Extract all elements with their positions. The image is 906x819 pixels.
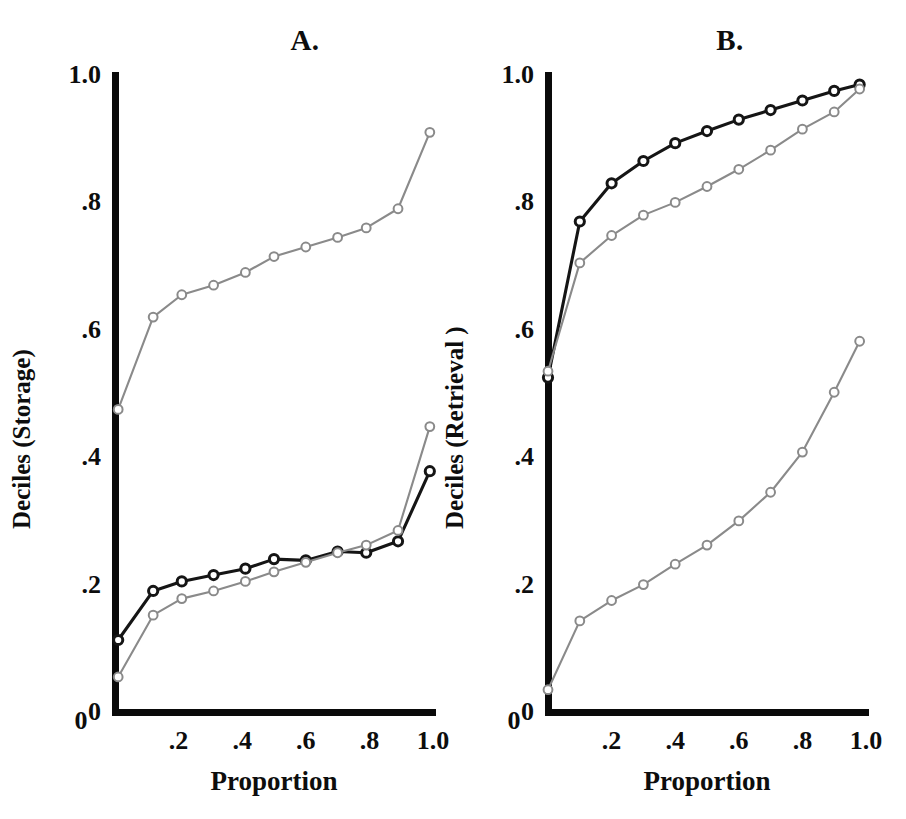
panel-b-xtick-5: 1.0 [834, 728, 898, 754]
panel-a-plot-area [0, 0, 453, 819]
data-point-marker [241, 564, 250, 573]
panel-a-x-axis-label: Proportion [109, 768, 439, 795]
data-point-marker [114, 673, 123, 682]
data-point-marker [241, 577, 250, 586]
data-point-marker [766, 488, 775, 497]
panel-a-ytick-2: .4 [37, 444, 101, 470]
data-point-marker [639, 211, 648, 220]
data-point-marker [209, 570, 218, 579]
data-point-marker [333, 233, 342, 242]
panel-b-x-axis-label: Proportion [542, 768, 872, 795]
data-point-marker [544, 685, 553, 694]
data-point-marker [607, 596, 616, 605]
data-point-marker [270, 567, 279, 576]
data-point-marker [766, 105, 775, 114]
data-point-marker [830, 388, 839, 397]
data-point-marker [301, 243, 310, 252]
data-point-marker [702, 126, 711, 135]
figure-container: A. Deciles (Storage) 0 .2 .4 .6 .8 1.0 0… [0, 0, 906, 819]
panel-a-ytick-4: .8 [37, 189, 101, 215]
data-point-marker [114, 405, 123, 414]
data-point-marker [798, 96, 807, 105]
data-point-marker [734, 517, 743, 526]
data-point-marker [671, 198, 680, 207]
data-point-marker [269, 555, 278, 564]
data-point-marker [394, 526, 403, 535]
data-point-marker [362, 541, 371, 550]
data-point-marker [333, 548, 342, 557]
data-point-marker [855, 337, 864, 346]
data-point-marker [362, 223, 371, 232]
data-point-marker [425, 128, 434, 137]
data-point-marker [425, 467, 434, 476]
panel-b-xtick-3: .6 [707, 728, 771, 754]
data-point-marker [830, 86, 839, 95]
data-point-marker [703, 182, 712, 191]
panel-a-xtick-2: .4 [210, 728, 274, 754]
data-point-marker [209, 587, 218, 596]
data-point-marker [798, 448, 807, 457]
data-point-marker [114, 635, 123, 644]
series-line-upper-gray [118, 132, 430, 409]
data-point-marker [301, 558, 310, 567]
data-point-marker [575, 259, 584, 268]
data-point-marker [607, 179, 616, 188]
data-point-marker [798, 125, 807, 134]
panel-b-xtick-0: 0 [482, 708, 546, 734]
data-point-marker [766, 146, 775, 155]
data-point-marker [639, 580, 648, 589]
panel-b-ytick-4: .8 [470, 189, 534, 215]
data-point-marker [425, 422, 434, 431]
series-line-lower-gray [118, 427, 430, 677]
data-point-marker [177, 594, 186, 603]
data-point-marker [177, 577, 186, 586]
panel-a-ytick-5: 1.0 [37, 62, 101, 88]
panel-b-ytick-2: .4 [470, 444, 534, 470]
panel-a-ytick-1: .2 [37, 572, 101, 598]
data-point-marker [149, 586, 158, 595]
data-point-marker [671, 560, 680, 569]
data-point-marker [241, 268, 250, 277]
data-point-marker [734, 115, 743, 124]
data-point-marker [671, 139, 680, 148]
data-point-marker [575, 617, 584, 626]
panel-a: A. Deciles (Storage) 0 .2 .4 .6 .8 1.0 0… [0, 0, 453, 819]
panel-b-xtick-4: .8 [770, 728, 834, 754]
panel-a-xtick-3: .6 [274, 728, 338, 754]
panel-a-xtick-4: .8 [337, 728, 401, 754]
data-point-marker [639, 156, 648, 165]
data-point-marker [544, 367, 553, 376]
panel-b-xtick-2: .4 [643, 728, 707, 754]
data-point-marker [607, 231, 616, 240]
panel-b-ytick-3: .6 [470, 317, 534, 343]
data-point-marker [177, 290, 186, 299]
data-point-marker [575, 217, 584, 226]
data-point-marker [149, 313, 158, 322]
series-line-lower-gray [548, 341, 860, 689]
data-point-marker [394, 204, 403, 213]
data-point-marker [830, 108, 839, 117]
data-point-marker [149, 611, 158, 620]
panel-b: B. Deciles (Retrieval ) 0 .2 .4 .6 .8 1.… [453, 0, 906, 819]
data-point-marker [855, 85, 864, 94]
data-point-marker [734, 165, 743, 174]
data-point-marker [393, 537, 402, 546]
panel-b-ytick-5: 1.0 [470, 62, 534, 88]
panel-a-xtick-1: .2 [147, 728, 211, 754]
data-point-marker [703, 541, 712, 550]
panel-a-ytick-3: .6 [37, 317, 101, 343]
panel-a-xtick-0: 0 [49, 708, 113, 734]
panel-b-ytick-1: .2 [470, 572, 534, 598]
data-point-marker [209, 281, 218, 290]
panel-b-xtick-1: .2 [580, 728, 644, 754]
data-point-marker [270, 252, 279, 261]
